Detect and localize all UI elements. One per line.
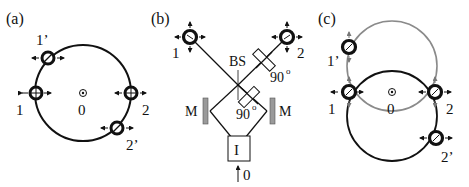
waveplate-top-label: 90 <box>270 70 284 85</box>
diagram-canvas: (a) 0 1 2 <box>0 0 469 187</box>
mirror-left-icon <box>203 98 208 124</box>
node-1-icon <box>22 87 51 99</box>
node-2-label: 2 <box>142 102 150 118</box>
node-2-icon <box>115 87 146 99</box>
mirror-left-label: M <box>185 104 198 119</box>
mirror-right-label: M <box>279 104 292 119</box>
center-dot-icon <box>389 89 396 96</box>
node-c2prime-icon <box>420 132 452 145</box>
source-box-label: I <box>234 142 239 158</box>
center-label: 0 <box>78 102 86 118</box>
svg-text:o: o <box>252 102 257 112</box>
panel-a-label: (a) <box>6 10 24 28</box>
panel-b: (b) BS 90 o 90 o M M I 0 <box>151 10 305 183</box>
beam-splitter-label: BS <box>229 54 246 69</box>
node-c2prime-label: 2’ <box>441 149 454 165</box>
node-c2-label: 2 <box>446 101 454 117</box>
waveplate-mid-label: 90 <box>236 107 250 122</box>
node-c1-label: 1 <box>328 101 336 117</box>
node-2prime-icon <box>101 122 133 134</box>
node-1prime-icon <box>32 52 64 64</box>
node-c1-icon <box>331 77 363 107</box>
node-1prime-label: 1’ <box>36 32 49 48</box>
node-c1prime-label: 1’ <box>327 53 340 69</box>
source-box <box>228 136 250 161</box>
node-2prime-label: 2’ <box>126 137 139 153</box>
mirror-right-icon <box>270 98 275 124</box>
panel-c: (c) 0 1 2 <box>318 10 454 165</box>
source-label: 0 <box>243 167 251 183</box>
svg-text:o: o <box>286 66 291 76</box>
center-dot-icon <box>80 90 87 97</box>
center-label: 0 <box>387 101 395 117</box>
panel-c-label: (c) <box>318 10 336 28</box>
node-c1prime-icon <box>343 32 356 62</box>
node-1-label: 1 <box>16 102 24 118</box>
gray-orbit-circle <box>347 21 437 111</box>
node-b1-label: 1 <box>172 45 180 61</box>
panel-b-label: (b) <box>151 10 170 28</box>
node-b2-label: 2 <box>297 45 305 61</box>
panel-a: (a) 0 1 2 <box>6 10 150 153</box>
